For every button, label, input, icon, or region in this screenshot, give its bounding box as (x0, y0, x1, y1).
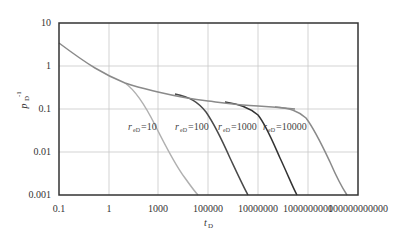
x-tick-1000: 1000 (148, 203, 168, 214)
y-tick-0.01: 0.01 (34, 146, 52, 157)
y-tick-0.1: 0.1 (39, 103, 52, 114)
re100-value: =100 (188, 121, 209, 132)
re10000-sub: eD (268, 127, 276, 133)
chart: 10 1 0.1 0.01 0.001 0.1 1 1000 100000 10… (0, 0, 412, 238)
x-axis-label-sub: D (208, 222, 213, 230)
re1000-value: =1000 (231, 121, 257, 132)
x-axis-ticks: 0.1 1 1000 100000 10000000 1000000000 10… (53, 203, 388, 214)
curve-label-re100: r eD =100 (175, 121, 209, 133)
y-tick-10: 10 (41, 17, 51, 28)
x-tick-1000000000: 1000000000 (283, 203, 333, 214)
x-tick-100000: 100000 (193, 203, 223, 214)
y-tick-1: 1 (46, 60, 51, 71)
x-tick-1: 1 (107, 203, 112, 214)
re1000-sub: eD (223, 127, 231, 133)
y-axis-label: p D -1 (15, 91, 31, 110)
y-axis-label-sup: -1 (15, 91, 23, 97)
re1000-prefix: r (218, 121, 222, 132)
y-tick-0.001: 0.001 (29, 189, 52, 200)
curve-re10 (125, 83, 198, 195)
curve-re1000 (225, 102, 297, 195)
curve-label-re1000: r eD =1000 (218, 121, 257, 133)
re10000-prefix: r (263, 121, 267, 132)
x-tick-0.1: 0.1 (53, 203, 66, 214)
re100-prefix: r (175, 121, 179, 132)
gridlines (59, 23, 358, 195)
re10-prefix: r (128, 121, 132, 132)
curve-label-re10: r eD =10 (128, 121, 157, 133)
re100-sub: eD (180, 127, 188, 133)
y-axis-ticks: 10 1 0.1 0.01 0.001 (29, 17, 52, 200)
x-tick-100000000000: 100000000000 (328, 203, 388, 214)
re10000-value: =10000 (276, 121, 307, 132)
re10-sub: eD (133, 127, 141, 133)
x-axis-label-main: t (204, 217, 207, 228)
x-axis-label: t D (204, 217, 213, 230)
curve-label-re10000: r eD =10000 (263, 121, 307, 133)
y-axis-label-main: p (18, 104, 29, 110)
y-axis-label-sub: D (23, 96, 31, 101)
x-tick-10000000: 10000000 (238, 203, 278, 214)
curve-shared (59, 43, 295, 109)
re10-value: =10 (141, 121, 157, 132)
